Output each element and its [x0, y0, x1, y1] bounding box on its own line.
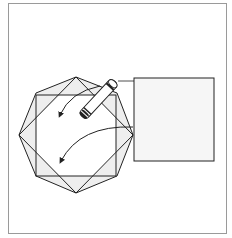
panel-square — [134, 78, 214, 161]
diagram-canvas — [0, 0, 232, 238]
